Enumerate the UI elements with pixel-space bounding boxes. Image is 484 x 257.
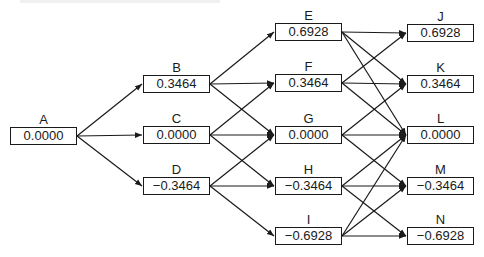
node-value-box: −0.6928 [407, 227, 474, 245]
node-label: M [407, 163, 474, 176]
node-label: I [275, 213, 342, 226]
node-value-box: 0.6928 [275, 23, 342, 41]
node-label: L [407, 112, 474, 125]
node-value-box: 0.6928 [407, 24, 474, 42]
edge-A-B [77, 84, 142, 136]
node-value-box: 0.0000 [275, 126, 342, 144]
node-label: H [275, 163, 342, 176]
node-label: J [407, 10, 474, 23]
node-value-box: −0.3464 [143, 177, 210, 195]
node-label: F [275, 60, 342, 73]
edge-A-D [77, 136, 142, 186]
node-label: C [143, 112, 210, 125]
node-value-box: −0.6928 [275, 227, 342, 245]
node-label: K [407, 61, 474, 74]
edge-D-I [210, 186, 274, 236]
node-value-box: 0.3464 [275, 74, 342, 92]
node-value-box: 0.3464 [407, 75, 474, 93]
node-label: G [275, 112, 342, 125]
edge-E-J [342, 32, 406, 33]
node-label: A [10, 113, 77, 126]
edge-B-F [210, 83, 274, 84]
node-value-box: 0.0000 [10, 127, 77, 145]
node-label: N [407, 213, 474, 226]
node-label: B [143, 61, 210, 74]
tree-diagram: A 0.0000 B 0.3464 C 0.0000 D −0.3464 E 0… [0, 0, 484, 257]
node-value-box: 0.3464 [143, 75, 210, 93]
edge-B-E [210, 32, 274, 84]
node-label: D [143, 163, 210, 176]
node-value-box: 0.0000 [407, 126, 474, 144]
edge-F-K [342, 83, 406, 84]
edge-A-C [77, 135, 142, 136]
node-label: E [275, 9, 342, 22]
node-value-box: −0.3464 [407, 177, 474, 195]
node-value-box: 0.0000 [143, 126, 210, 144]
node-value-box: −0.3464 [275, 177, 342, 195]
